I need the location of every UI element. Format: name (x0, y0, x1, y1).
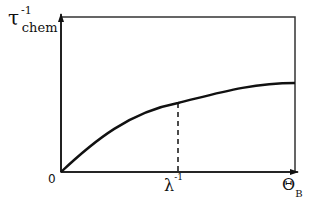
y-label-main: τ (8, 6, 19, 30)
theta-main: Θ (282, 175, 295, 194)
x-axis-label: ΘB (282, 175, 302, 196)
y-label-sub: chem (22, 20, 58, 35)
y-axis-label: τ-1chem (8, 6, 67, 33)
lambda-label: λ-1 (164, 176, 183, 195)
y-label-sup: -1 (21, 4, 32, 17)
lambda-sup: -1 (174, 172, 183, 182)
theta-sub: B (295, 188, 302, 199)
origin-label: 0 (48, 172, 56, 186)
lambda-main: λ (164, 176, 174, 195)
